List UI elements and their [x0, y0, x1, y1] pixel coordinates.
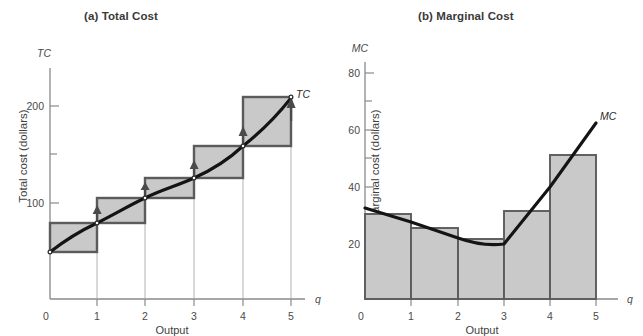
- bar: [411, 228, 458, 299]
- curve-node: [143, 196, 147, 200]
- panel-a-xlabel-3: 3: [191, 310, 197, 322]
- bar: [365, 214, 411, 299]
- panel-a-ylabel-200: 200: [26, 100, 44, 112]
- panel-total-cost: (a) Total Cost Total cost (dollars): [0, 0, 330, 336]
- panel-b-ylabel-80: 80: [348, 67, 360, 79]
- panel-b-xlabel-1: 1: [408, 310, 414, 322]
- panel-a-xlabel-0: 0: [43, 310, 49, 322]
- panel-b-ylabel-40: 40: [348, 181, 360, 193]
- panel-a-curve-label: TC: [296, 88, 310, 100]
- panel-b-xlabel-3: 3: [501, 310, 507, 322]
- panel-marginal-cost: (b) Marginal Cost Marginal cost (dollars…: [330, 0, 643, 336]
- bar: [504, 211, 550, 299]
- panel-b-xlabel-4: 4: [547, 310, 553, 322]
- bar: [458, 239, 504, 299]
- panel-a-xlabel-5: 5: [288, 310, 294, 322]
- panel-a-plot: TC q TC 200 100 0 1 2 3 4 5 Output: [0, 0, 330, 336]
- panel-a-y-axis-symbol: TC: [37, 47, 51, 59]
- curve-node: [192, 176, 196, 180]
- panel-a-x-axis-symbol: q: [315, 293, 321, 305]
- panel-b-x-axis-title: Output: [465, 324, 498, 336]
- curve-node: [95, 221, 99, 225]
- curve-node: [241, 144, 245, 148]
- panel-b-xlabel-2: 2: [455, 310, 461, 322]
- panel-a-xlabel-4: 4: [240, 310, 246, 322]
- panel-b-x-axis-symbol: q: [627, 293, 633, 305]
- panel-a-xlabel-2: 2: [142, 310, 148, 322]
- curve-node: [48, 250, 52, 254]
- panel-b-ylabel-60: 60: [348, 124, 360, 136]
- figure-container: (a) Total Cost Total cost (dollars): [0, 0, 643, 336]
- curve-node: [289, 95, 293, 99]
- panel-b-curve-label: MC: [600, 110, 617, 122]
- panel-a-ylabel-100: 100: [26, 197, 44, 209]
- panel-a-xlabel-1: 1: [94, 310, 100, 322]
- panel-b-ylabel-20: 20: [348, 238, 360, 250]
- panel-b-plot: MC q MC 80 60 40 20 0 1 2 3 4 5 Output: [330, 0, 643, 336]
- panel-b-xlabel-0: 0: [358, 310, 364, 322]
- panel-b-y-axis-symbol: MC: [352, 42, 369, 54]
- panel-b-xlabel-5: 5: [593, 310, 599, 322]
- panel-a-x-axis-title: Output: [155, 324, 188, 336]
